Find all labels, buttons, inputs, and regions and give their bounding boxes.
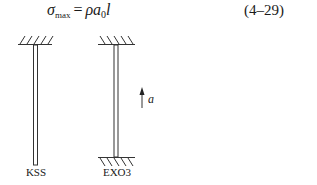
right-ceiling-support-icon — [98, 36, 135, 45]
rod-diagram — [0, 0, 317, 185]
right-rod — [114, 45, 118, 157]
arrow-label: a — [148, 92, 154, 107]
left-rod-label: KSS — [26, 166, 46, 178]
left-rod — [34, 45, 38, 165]
right-floor-support-icon — [98, 158, 135, 167]
right-rod-label: EXO3 — [103, 166, 131, 178]
left-ceiling-support-icon — [18, 36, 53, 45]
acceleration-arrow-icon — [140, 87, 145, 108]
